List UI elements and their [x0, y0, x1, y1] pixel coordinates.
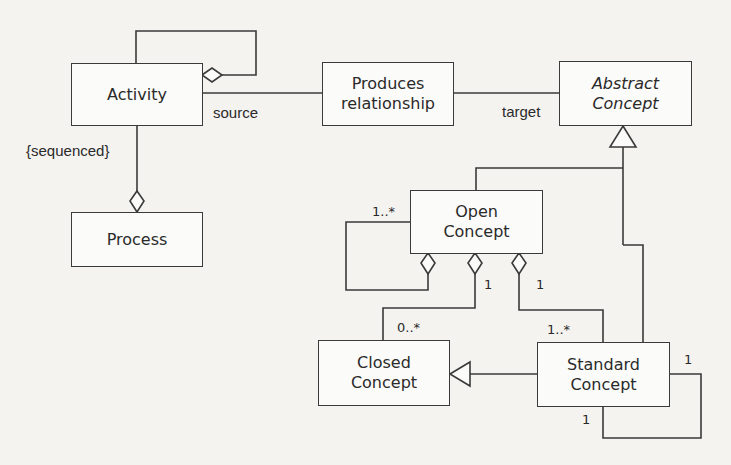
aggregation-diamond-icon: [202, 68, 222, 82]
role-source-label: source: [213, 105, 258, 121]
class-activity[interactable]: Activity: [71, 63, 203, 126]
multiplicity-open-self: 1..*: [372, 204, 395, 220]
generalization-triangle-icon: [610, 126, 636, 147]
class-activity-label: Activity: [107, 85, 167, 105]
multiplicity-open-standard-owner: 1: [536, 277, 544, 293]
generalization-triangle-icon: [450, 362, 470, 386]
standard-closed-generalization: [450, 362, 537, 386]
class-standard-concept[interactable]: Standard Concept: [537, 342, 670, 407]
class-abstract-concept[interactable]: Abstract Concept: [559, 61, 692, 126]
class-closed-label: Closed Concept: [351, 353, 417, 393]
class-process[interactable]: Process: [71, 212, 203, 267]
class-process-label: Process: [107, 230, 168, 250]
multiplicity-standard-self-bottom: 1: [582, 412, 590, 428]
class-produces-label: Produces relationship: [341, 74, 435, 114]
aggregation-diamond-icon: [512, 253, 526, 274]
class-open-concept[interactable]: Open Concept: [410, 190, 543, 254]
role-target-label: target: [502, 104, 540, 120]
class-abstract-label: Abstract Concept: [592, 74, 659, 114]
multiplicity-open-closed-owner: 1: [484, 277, 492, 293]
multiplicity-open-standard-part: 1..*: [547, 322, 570, 338]
multiplicity-standard-self-right: 1: [684, 352, 692, 368]
process-aggregation: [130, 125, 144, 212]
class-standard-label: Standard Concept: [567, 355, 640, 395]
class-produces-relationship[interactable]: Produces relationship: [322, 62, 454, 126]
aggregation-diamond-icon: [130, 191, 144, 212]
constraint-sequenced-label: {sequenced}: [26, 143, 109, 159]
uml-diagram: Activity Produces relationship Abstract …: [0, 0, 731, 465]
aggregation-diamond-icon: [468, 253, 482, 274]
multiplicity-open-closed-part: 0..*: [397, 320, 420, 336]
aggregation-diamond-icon: [421, 253, 435, 274]
class-open-label: Open Concept: [443, 202, 509, 242]
class-closed-concept[interactable]: Closed Concept: [318, 340, 450, 406]
